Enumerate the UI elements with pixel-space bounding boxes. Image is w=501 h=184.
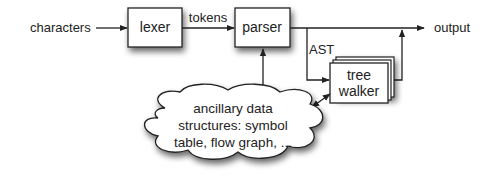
walker-output-arrow xyxy=(394,30,402,80)
lexer-node: lexer xyxy=(128,8,182,47)
lexer-label: lexer xyxy=(140,19,171,35)
tree-walker-label-line2: walker xyxy=(338,83,380,99)
ancillary-line3: table, flow graph, ... xyxy=(174,135,292,150)
tree-walker-node: tree walker xyxy=(330,57,394,103)
ast-label: AST xyxy=(309,42,334,57)
tokens-label: tokens xyxy=(189,10,228,25)
input-label: characters xyxy=(30,20,91,35)
ancillary-data-cloud: ancillary data structures: symbol table,… xyxy=(145,84,323,159)
walker-ancillary-arrow xyxy=(312,94,330,107)
output-label: output xyxy=(434,20,471,35)
compiler-pipeline-diagram: characters lexer tokens parser output AS… xyxy=(0,0,501,184)
tree-walker-label-line1: tree xyxy=(347,67,371,83)
ancillary-line1: ancillary data xyxy=(193,101,273,116)
parser-node: parser xyxy=(235,8,290,47)
ancillary-line2: structures: symbol xyxy=(178,118,288,133)
parser-label: parser xyxy=(242,19,282,35)
